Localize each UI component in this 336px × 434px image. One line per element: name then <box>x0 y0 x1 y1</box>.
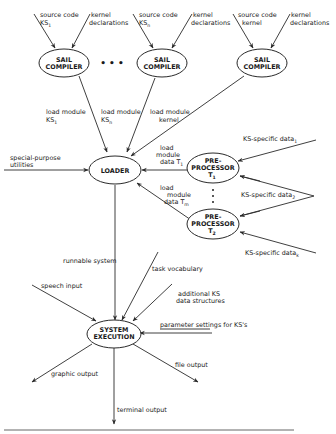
edge-additional-ks <box>133 284 172 321</box>
sail-compiler-kernel: SAIL COMPILER <box>237 49 287 77</box>
loader-node: LOADER <box>89 156 141 184</box>
preprocessor-t1: PRE- PROCESSOR T1 <box>187 153 239 183</box>
label-load-module-kernel-b: kernel <box>159 116 179 124</box>
label-ks-data-1: KS-specific data1 <box>243 135 297 144</box>
label-kernel-decl-k: kernel <box>291 11 311 19</box>
label-ks-data-2: KS-specific data2 <box>241 191 295 200</box>
label-load-tm-c: data Tm <box>164 198 189 207</box>
flow-diagram: SAIL COMPILER • • • SAIL COMPILER SAIL C… <box>0 0 336 434</box>
label-kernel-decl-1b: declarations <box>89 19 129 27</box>
node-label: COMPILER <box>244 63 281 71</box>
edge-ks-data-1 <box>238 140 316 161</box>
system-execution-node: SYSTEM EXECUTION <box>87 320 141 348</box>
vertical-ellipsis <box>212 189 214 203</box>
label-task-vocabulary: task vocabulary <box>152 265 203 273</box>
label-ks-data-k: KS-specific datak <box>245 249 299 258</box>
label-graphic-output: graphic output <box>51 370 99 378</box>
label-source-ks1-name: KS1 <box>40 19 51 28</box>
edge-task-vocabulary <box>122 252 158 320</box>
preprocessor-t2: PRE- PROCESSOR T2 <box>187 209 239 239</box>
label-terminal-output: terminal output <box>117 406 167 414</box>
sail-compiler-ks1: SAIL COMPILER <box>39 49 89 77</box>
edge-load-module-kernel <box>131 76 244 156</box>
label-source-ks1: source code <box>40 11 79 19</box>
node-label: COMPILER <box>144 63 181 71</box>
label-load-module-ks1-b: KS1 <box>46 116 57 125</box>
label-parameter-settings: parameter settings for KS's <box>160 321 248 329</box>
label-source-ksn-name: KSn <box>139 19 150 28</box>
label-data-structures: data structures <box>176 297 225 305</box>
edge-ks-data-2-arrow-top <box>240 176 260 181</box>
label-load-module-ks1: load module <box>46 108 86 116</box>
label-source-kernel: source code <box>238 11 277 19</box>
label-load-module-ksn: load module <box>101 108 141 116</box>
node-label: COMPILER <box>46 63 83 71</box>
label-speech-input: speech input <box>41 282 83 290</box>
label-load-t1-c: data T1 <box>160 158 183 167</box>
ellipsis-dots: • • • <box>100 58 124 68</box>
label-kernel-decl-n: kernel <box>193 11 213 19</box>
edge-kernel-decl-n <box>172 14 192 48</box>
node-label: PROCESSOR <box>191 164 234 172</box>
label-kernel-decl-kb: declarations <box>290 19 330 27</box>
sail-compiler-ksn: SAIL COMPILER <box>137 49 187 77</box>
label-load-module-kernel: load module <box>150 108 190 116</box>
label-kernel-decl-nb: declarations <box>191 19 231 27</box>
label-load-module-ksn-b: KSn <box>101 116 112 125</box>
label-source-kernel-b: kernel <box>242 19 262 27</box>
edge-speech-input <box>32 285 96 321</box>
edge-ks-data-2-arrow-bottom <box>240 211 260 216</box>
node-label: PROCESSOR <box>191 220 234 228</box>
label-runnable-system: runnable system <box>63 257 117 265</box>
node-label: EXECUTION <box>93 333 134 341</box>
edge-kernel-decl-k <box>271 14 290 48</box>
node-label: LOADER <box>101 167 130 175</box>
label-utilities: utilities <box>10 161 34 169</box>
label-file-output: file output <box>175 361 208 369</box>
edge-kernel-decl-1 <box>72 14 90 48</box>
label-kernel-decl-1: kernel <box>91 11 111 19</box>
label-source-ksn: source code <box>139 11 178 19</box>
